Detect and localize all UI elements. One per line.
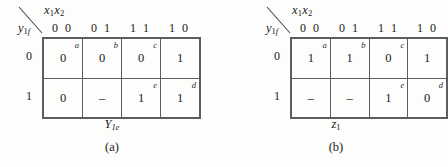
kmap-panel-a: x1x2 y1f 0 0 0 1 1 1 1 0 0 1 a 0 b (0, 0, 224, 167)
kmap-cell[interactable]: 1 (161, 39, 200, 79)
cell-tag: c (153, 40, 157, 50)
table-row: a 1 b 1 c 0 1 (292, 39, 447, 79)
kmap-cell[interactable]: a 1 (292, 39, 331, 79)
row-header: 0 (266, 37, 288, 77)
column-headers-b: 0 0 0 1 1 1 1 0 (290, 20, 446, 36)
cell-value: 1 (161, 51, 199, 66)
cell-tag: e (400, 80, 404, 90)
kmap-cell[interactable]: 0 (44, 78, 83, 118)
table-row: 0 – e 1 d 1 (44, 78, 200, 118)
cell-tag: b (114, 40, 118, 50)
column-header: 0 0 (42, 20, 81, 36)
row-variable-label-a: y1f (18, 21, 30, 36)
cell-value: 0 (83, 51, 121, 66)
cell-value: – (83, 90, 121, 105)
kmap-cell[interactable]: c 0 (369, 39, 408, 79)
cell-value: 1 (331, 51, 369, 66)
cell-tag: b (361, 40, 365, 50)
kmap-cell[interactable]: a 0 (44, 39, 83, 79)
cell-value: 0 (44, 90, 82, 105)
kmap-cell[interactable]: e 1 (369, 78, 408, 118)
panel-caption-a: (a) (0, 140, 224, 155)
kmap-cell[interactable]: c 0 (122, 39, 161, 79)
row-headers-a: 0 1 (18, 37, 40, 116)
cell-value: 1 (408, 51, 446, 66)
cell-value: 1 (122, 90, 160, 105)
karnaugh-map-figure: x1x2 y1f 0 0 0 1 1 1 1 0 0 1 a 0 b (0, 0, 448, 167)
row-variable-label-b: y1f (266, 21, 278, 36)
cell-tag: c (400, 40, 404, 50)
cell-value: 0 (122, 51, 160, 66)
column-header: 1 0 (159, 20, 198, 36)
column-variable-label-b: x1x2 (292, 3, 312, 18)
cell-tag: d (439, 80, 443, 90)
kmap-grid-b: a 1 b 1 c 0 1 (290, 37, 448, 119)
column-header: 0 0 (290, 20, 329, 36)
column-header: 1 0 (407, 20, 446, 36)
kmap-cell[interactable]: – (330, 78, 369, 118)
table-row: a 0 b 0 c 0 1 (44, 39, 200, 79)
column-headers-a: 0 0 0 1 1 1 1 0 (42, 20, 198, 36)
cell-value: 1 (370, 90, 408, 105)
kmap-cell[interactable]: d 1 (161, 78, 200, 118)
function-label-a: Y1e (0, 117, 224, 132)
kmap-cell[interactable]: – (292, 78, 331, 118)
cell-tag: a (75, 40, 79, 50)
panel-caption-b: (b) (224, 140, 448, 155)
cell-value: – (331, 90, 369, 105)
row-header: 1 (18, 77, 40, 117)
kmap-cell[interactable]: d 0 (408, 78, 447, 118)
column-variable-label-a: x1x2 (44, 3, 64, 18)
cell-value: 1 (161, 90, 199, 105)
kmap-cell[interactable]: e 1 (122, 78, 161, 118)
row-header: 1 (266, 77, 288, 117)
table-row: – – e 1 d 0 (292, 78, 447, 118)
column-header: 1 1 (120, 20, 159, 36)
row-headers-b: 0 1 (266, 37, 288, 116)
kmap-cell[interactable]: 1 (408, 39, 447, 79)
cell-tag: d (192, 80, 196, 90)
cell-tag: e (153, 80, 157, 90)
kmap-cell[interactable]: b 0 (83, 39, 122, 79)
column-header: 1 1 (368, 20, 407, 36)
kmap-cell[interactable]: – (83, 78, 122, 118)
cell-value: 0 (370, 51, 408, 66)
row-header: 0 (18, 37, 40, 77)
cell-value: 1 (292, 51, 330, 66)
cell-tag: a (323, 40, 327, 50)
column-header: 0 1 (81, 20, 120, 36)
cell-value: – (292, 90, 330, 105)
kmap-cell[interactable]: b 1 (330, 39, 369, 79)
column-header: 0 1 (329, 20, 368, 36)
function-label-b: z1 (224, 117, 448, 132)
cell-value: 0 (408, 90, 446, 105)
cell-value: 0 (44, 51, 82, 66)
kmap-panel-b: x1x2 y1f 0 0 0 1 1 1 1 0 0 1 a 1 b (224, 0, 448, 167)
kmap-grid-a: a 0 b 0 c 0 1 (42, 37, 201, 119)
